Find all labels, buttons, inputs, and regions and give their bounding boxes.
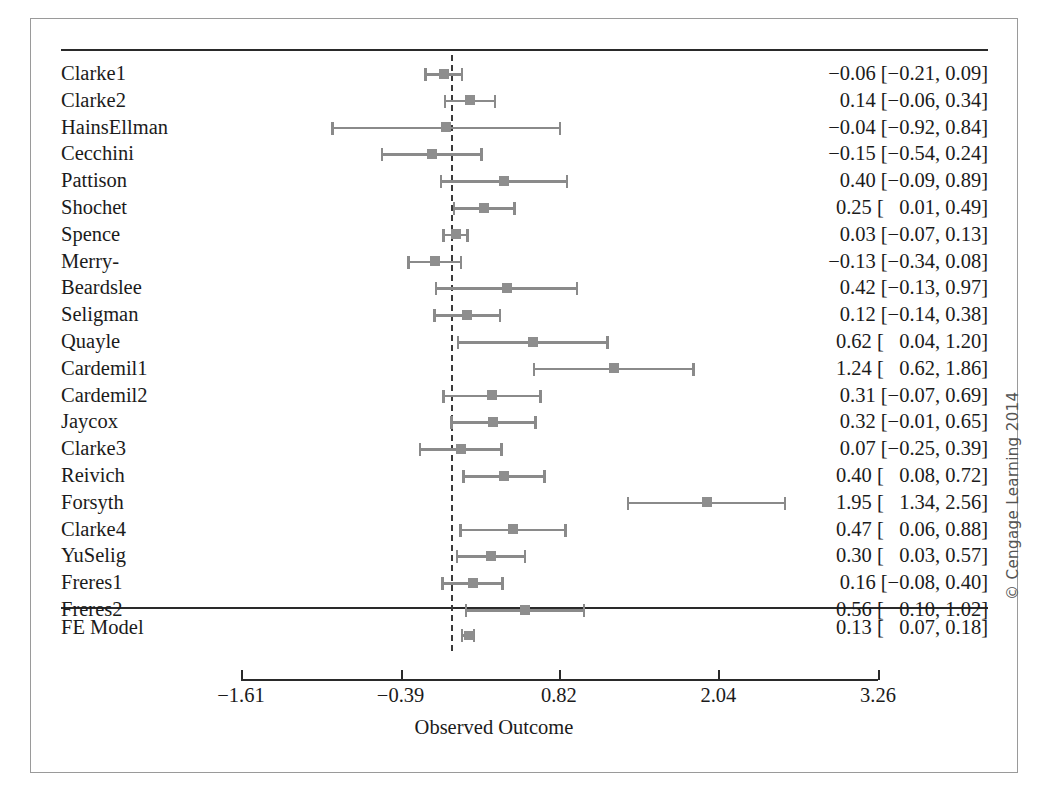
estimate-label: −0.15 [−0.54, 0.24] bbox=[700, 140, 988, 167]
copyright-credit: © Cengage Learning 2014 bbox=[1004, 392, 1022, 600]
study-label: YuSelig bbox=[61, 542, 126, 569]
estimate-label: −0.06 [−0.21, 0.09] bbox=[700, 60, 988, 87]
ci-cap-upper bbox=[564, 524, 567, 537]
effect-size-marker bbox=[502, 283, 512, 293]
effect-size-marker bbox=[465, 95, 475, 105]
table-row: Seligman0.12 [−0.14, 0.38] bbox=[0, 301, 1044, 328]
table-row: Clarke1−0.06 [−0.21, 0.09] bbox=[0, 60, 1044, 87]
estimate-label: 0.40 [−0.09, 0.89] bbox=[700, 167, 988, 194]
study-label: Jaycox bbox=[61, 408, 118, 435]
x-axis-tick-label: −0.39 bbox=[341, 684, 461, 707]
estimate-label: −0.13 [−0.34, 0.08] bbox=[700, 248, 988, 275]
table-row: Shochet0.25 [ 0.01, 0.49] bbox=[0, 194, 1044, 221]
study-label: Spence bbox=[61, 221, 120, 248]
header-rule bbox=[61, 49, 988, 51]
estimate-label: −0.04 [−0.92, 0.84] bbox=[700, 114, 988, 141]
summary-effect-marker bbox=[464, 631, 474, 640]
table-row: Cecchini−0.15 [−0.54, 0.24] bbox=[0, 140, 1044, 167]
estimate-label: 0.07 [−0.25, 0.39] bbox=[700, 435, 988, 462]
table-row: Reivich0.40 [ 0.08, 0.72] bbox=[0, 462, 1044, 489]
study-label: Seligman bbox=[61, 301, 138, 328]
estimate-label: 0.31 [−0.07, 0.69] bbox=[700, 382, 988, 409]
effect-size-marker bbox=[499, 471, 509, 481]
table-row: HainsEllman−0.04 [−0.92, 0.84] bbox=[0, 114, 1044, 141]
effect-size-marker bbox=[486, 551, 496, 561]
ci-cap-lower bbox=[462, 470, 465, 483]
estimate-label: 0.62 [ 0.04, 1.20] bbox=[700, 328, 988, 355]
ci-cap-upper bbox=[480, 148, 483, 161]
ci-cap-lower bbox=[441, 577, 444, 590]
table-row: Clarke30.07 [−0.25, 0.39] bbox=[0, 435, 1044, 462]
estimate-label: 0.32 [−0.01, 0.65] bbox=[700, 408, 988, 435]
table-row: Spence0.03 [−0.07, 0.13] bbox=[0, 221, 1044, 248]
table-row: Cardemil20.31 [−0.07, 0.69] bbox=[0, 382, 1044, 409]
effect-size-marker bbox=[508, 524, 518, 534]
table-row: Forsyth1.95 [ 1.34, 2.56] bbox=[0, 489, 1044, 516]
effect-size-marker bbox=[451, 229, 461, 239]
ci-cap-upper bbox=[499, 309, 502, 322]
effect-size-marker bbox=[441, 122, 451, 132]
estimate-label: 0.25 [ 0.01, 0.49] bbox=[700, 194, 988, 221]
ci-cap-upper bbox=[460, 256, 463, 269]
effect-size-marker bbox=[528, 337, 538, 347]
ci-cap-lower bbox=[435, 282, 438, 295]
study-label: Beardslee bbox=[61, 274, 142, 301]
ci-cap-upper bbox=[461, 68, 464, 81]
ci-cap-lower bbox=[533, 363, 536, 376]
ci-cap-upper bbox=[606, 336, 609, 349]
table-row: Merry-−0.13 [−0.34, 0.08] bbox=[0, 248, 1044, 275]
study-label: Cardemil2 bbox=[61, 382, 148, 409]
x-axis-tick-label: 2.04 bbox=[658, 684, 778, 707]
estimate-label: 1.95 [ 1.34, 2.56] bbox=[700, 489, 988, 516]
table-row: Clarke40.47 [ 0.06, 0.88] bbox=[0, 516, 1044, 543]
estimate-label: 0.42 [−0.13, 0.97] bbox=[700, 274, 988, 301]
effect-size-marker bbox=[462, 310, 472, 320]
table-row: YuSelig0.30 [ 0.03, 0.57] bbox=[0, 542, 1044, 569]
ci-cap-lower bbox=[331, 122, 334, 135]
summary-table-row: FE Model0.13 [ 0.07, 0.18] bbox=[0, 614, 1044, 641]
study-label: Clarke1 bbox=[61, 60, 126, 87]
estimate-label: 0.14 [−0.06, 0.34] bbox=[700, 87, 988, 114]
x-axis-tick bbox=[241, 670, 243, 680]
ci-cap-upper bbox=[576, 282, 579, 295]
ci-cap-lower bbox=[457, 336, 460, 349]
ci-cap-upper bbox=[500, 443, 503, 456]
study-label: Clarke4 bbox=[61, 516, 126, 543]
effect-size-marker bbox=[430, 256, 440, 266]
study-label: Cecchini bbox=[61, 140, 134, 167]
ci-cap-upper bbox=[543, 470, 546, 483]
ci-cap-upper bbox=[534, 416, 537, 429]
study-label: Quayle bbox=[61, 328, 120, 355]
estimate-label: 0.03 [−0.07, 0.13] bbox=[700, 221, 988, 248]
estimate-label: 0.40 [ 0.08, 0.72] bbox=[700, 462, 988, 489]
study-label: Shochet bbox=[61, 194, 127, 221]
table-row: Jaycox0.32 [−0.01, 0.65] bbox=[0, 408, 1044, 435]
effect-size-marker bbox=[520, 605, 530, 615]
x-axis-title: Observed Outcome bbox=[0, 716, 988, 739]
ci-cap-upper bbox=[501, 577, 504, 590]
effect-size-marker bbox=[609, 363, 619, 373]
ci-cap-upper bbox=[692, 363, 695, 376]
ci-cap-lower bbox=[424, 68, 427, 81]
ci-cap-lower bbox=[450, 416, 453, 429]
ci-cap-lower bbox=[456, 550, 459, 563]
ci-cap-upper bbox=[524, 550, 527, 563]
x-axis-tick bbox=[401, 670, 403, 680]
ci-cap-upper bbox=[513, 202, 516, 215]
table-row: Cardemil11.24 [ 0.62, 1.86] bbox=[0, 355, 1044, 382]
ci-cap-lower bbox=[444, 95, 447, 108]
ci-cap-lower bbox=[453, 202, 456, 215]
effect-size-marker bbox=[488, 417, 498, 427]
study-label: Cardemil1 bbox=[61, 355, 148, 382]
x-axis-tick-label: −1.61 bbox=[181, 684, 301, 707]
effect-size-marker bbox=[427, 149, 437, 159]
estimate-label: 0.30 [ 0.03, 0.57] bbox=[700, 542, 988, 569]
study-label: Clarke2 bbox=[61, 87, 126, 114]
ci-cap-lower bbox=[433, 309, 436, 322]
table-row: Clarke20.14 [−0.06, 0.34] bbox=[0, 87, 1044, 114]
ci-cap-upper bbox=[559, 122, 562, 135]
effect-size-marker bbox=[499, 176, 509, 186]
x-axis-tick-label: 3.26 bbox=[818, 684, 938, 707]
study-label: Freres1 bbox=[61, 569, 122, 596]
estimate-label: 0.16 [−0.08, 0.40] bbox=[700, 569, 988, 596]
